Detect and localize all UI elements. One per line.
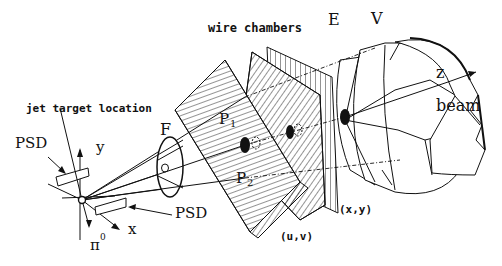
target-axes	[48, 148, 120, 240]
label-f: F	[160, 120, 171, 139]
label-jet-target: jet target location	[26, 102, 152, 115]
hit-spot-2	[286, 125, 294, 139]
label-v: V	[370, 9, 383, 28]
psd-right-arrow-icon	[128, 204, 136, 210]
label-z: z	[436, 63, 444, 82]
pi0-arrow-head-icon	[86, 220, 92, 228]
label-uv: (u,v)	[280, 230, 313, 243]
detector-diagram: wire chambers E V z beam jet target loca…	[0, 0, 502, 266]
hit-spot-1	[240, 137, 250, 153]
label-beam: beam	[436, 96, 480, 115]
label-e: E	[328, 10, 340, 29]
label-pi0-sup: 0	[100, 232, 106, 242]
jet-target-icon	[79, 197, 86, 204]
label-pi0-main: π	[90, 236, 100, 254]
label-p1-sub: 1	[230, 118, 236, 129]
diagram-svg: wire chambers E V z beam jet target loca…	[0, 0, 502, 266]
label-wire-chambers: wire chambers	[208, 21, 302, 35]
label-p2-main: P	[236, 169, 246, 187]
label-xy: (x,y)	[339, 203, 372, 216]
psd-right-detector	[95, 198, 126, 215]
label-y: y	[95, 138, 105, 156]
label-psd-left: PSD	[15, 134, 47, 152]
y-arrow-head-icon	[77, 148, 83, 157]
label-x: x	[128, 220, 137, 238]
label-p2-sub: 2	[247, 177, 253, 188]
label-p1-main: P	[219, 110, 229, 128]
label-psd-right: PSD	[175, 204, 207, 222]
label-pi0: π 0	[90, 232, 106, 254]
psd-right-leader	[130, 207, 172, 215]
